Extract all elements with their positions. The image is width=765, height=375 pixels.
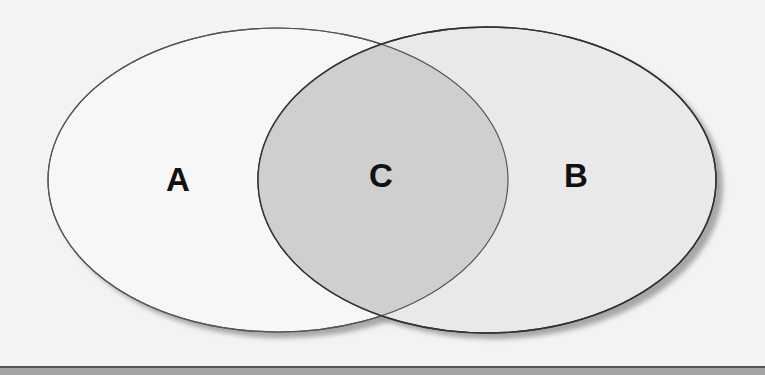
set-b-label: B <box>564 157 588 194</box>
set-a-label: A <box>166 161 190 198</box>
venn-diagram: A C B <box>0 0 765 375</box>
bottom-band <box>0 368 765 375</box>
intersection-c-label: C <box>369 157 393 194</box>
venn-diagram-canvas: A C B <box>0 0 765 375</box>
